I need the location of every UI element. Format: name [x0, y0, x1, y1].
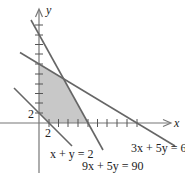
eq-label-9x-plus-5y: 9x + 5y = 90 — [82, 159, 144, 173]
eq-label-3x-plus-5y: 3x + 5y = 60 — [131, 141, 185, 155]
y-tick-label: 2 — [28, 107, 34, 121]
chart-canvas: y x 2 2 x + y = 2 9x + 5y = 90 3x + 5y =… — [0, 0, 185, 173]
x-tick-label: 2 — [45, 126, 51, 140]
x-axis-label: x — [173, 116, 180, 130]
y-axis-label: y — [45, 3, 52, 17]
feasible-region — [39, 64, 88, 123]
